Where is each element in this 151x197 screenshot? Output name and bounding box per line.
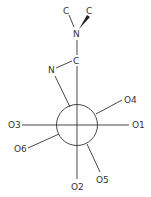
label-o6: O6 — [14, 144, 27, 154]
label-o2: O2 — [71, 182, 84, 192]
label-o3: O3 — [8, 120, 21, 130]
atom-n-top: N — [73, 29, 80, 39]
atom-n-left: N — [48, 65, 55, 75]
atom-c-mid: C — [73, 56, 79, 66]
bond-o6 — [28, 134, 59, 148]
bond-ctl-n — [69, 15, 74, 27]
bond-nleft-c — [56, 61, 72, 68]
label-o5: O5 — [96, 175, 109, 185]
label-o1: O1 — [132, 120, 145, 130]
label-o4: O4 — [124, 95, 137, 105]
newman-diagram: C C N C N O3 O1 O4 O6 O5 O2 — [0, 0, 151, 197]
wedge-bond-n-ctr — [79, 15, 90, 29]
bond-o5 — [87, 144, 100, 172]
atom-c-top-left: C — [63, 6, 69, 16]
bond-o4 — [96, 100, 122, 114]
atom-c-top-right: C — [86, 6, 92, 16]
bond-nleft-ring — [55, 76, 70, 107]
